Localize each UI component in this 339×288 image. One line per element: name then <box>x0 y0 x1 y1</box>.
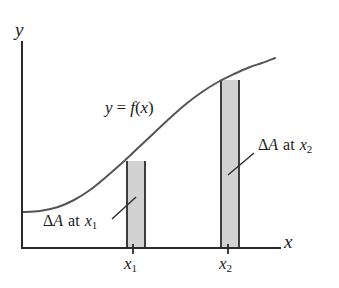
curve-equation-label: y=f(x) <box>105 99 154 116</box>
curve-label-close-paren: ) <box>148 98 154 117</box>
tick-label-x1-sub: 1 <box>132 262 138 274</box>
tick-label-x1: x1 <box>124 255 137 274</box>
subscript-base-x1: x <box>85 212 92 229</box>
tick-label-x2-base: x <box>219 254 227 273</box>
subscript-base-x2: x <box>300 136 307 153</box>
annotation-delta-a-at-x2: ΔAatx2 <box>258 137 312 155</box>
delta-symbol-x1: Δ <box>43 212 53 229</box>
y-axis-label: y <box>15 20 23 39</box>
annotation-delta-a-at-x1: ΔAatx1 <box>43 213 97 231</box>
area-element-x1-rect <box>127 161 145 248</box>
area-element-figure: y x y=f(x) ΔAatx1 ΔAatx2 x1 x2 <box>0 0 339 288</box>
at-word-x1: at <box>68 212 80 229</box>
delta-symbol-x2: Δ <box>258 136 268 153</box>
tick-label-x1-base: x <box>124 254 132 273</box>
curve-label-equals: = <box>117 98 127 117</box>
curve-label-arg: x <box>141 98 149 117</box>
tick-label-x2: x2 <box>219 255 232 274</box>
tick-label-x2-sub: 2 <box>227 262 233 274</box>
area-symbol-x2: A <box>268 136 278 153</box>
subscript-index-x2: 2 <box>307 143 313 155</box>
x-axis-label: x <box>284 232 292 251</box>
area-element-x2-rect <box>221 80 239 248</box>
curve-label-y: y <box>105 98 113 117</box>
at-word-x2: at <box>283 136 295 153</box>
subscript-index-x1: 1 <box>92 219 98 231</box>
area-symbol-x1: A <box>53 212 63 229</box>
